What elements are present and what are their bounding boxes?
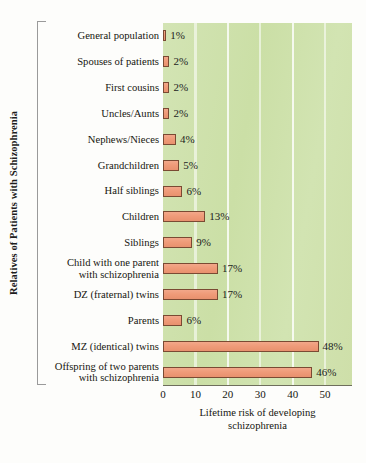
bar-row: 2% bbox=[163, 106, 352, 122]
bar bbox=[163, 30, 166, 41]
category-label: Offspring of two parentswith schizophren… bbox=[46, 361, 159, 384]
bar-row: 2% bbox=[163, 80, 352, 96]
category-label: Children bbox=[46, 211, 159, 222]
category-label: Grandchildren bbox=[46, 160, 159, 171]
bar bbox=[163, 341, 319, 352]
bar bbox=[163, 263, 218, 274]
category-label-line: Grandchildren bbox=[46, 160, 159, 171]
bar-value-label: 2% bbox=[173, 82, 188, 93]
bar-value-label: 9% bbox=[196, 237, 211, 248]
bar bbox=[163, 56, 169, 67]
category-label: Nephews/Nieces bbox=[46, 134, 159, 145]
bar bbox=[163, 211, 205, 222]
category-label-line: Spouses of patients bbox=[46, 56, 159, 67]
category-label: MZ (identical) twins bbox=[46, 341, 159, 352]
category-label-list: General populationSpouses of patientsFir… bbox=[46, 23, 161, 385]
category-label: General population bbox=[46, 30, 159, 41]
bar bbox=[163, 289, 218, 300]
category-label-line: Offspring of two parents bbox=[46, 361, 159, 372]
category-label: First cousins bbox=[46, 82, 159, 93]
bar-value-label: 17% bbox=[222, 289, 242, 300]
category-label: Siblings bbox=[46, 237, 159, 248]
category-label: Spouses of patients bbox=[46, 56, 159, 67]
chart-figure: Relatives of Patients with Schizophrenia… bbox=[0, 0, 366, 463]
bar-row: 17% bbox=[163, 261, 352, 277]
bar-value-label: 46% bbox=[316, 367, 336, 378]
plot-area: 1%2%2%2%4%5%6%13%9%17%17%6%48%46% bbox=[163, 23, 352, 385]
category-label-line: Nephews/Nieces bbox=[46, 134, 159, 145]
x-axis-ticks: 01020304050 bbox=[103, 388, 363, 404]
category-label-line: First cousins bbox=[46, 82, 159, 93]
x-axis-title-line: schizophrenia bbox=[163, 419, 352, 432]
bar-row: 5% bbox=[163, 157, 352, 173]
category-label: DZ (fraternal) twins bbox=[46, 289, 159, 300]
category-label: Child with one parentwith schizophrenia bbox=[46, 257, 159, 280]
category-label-line: with schizophrenia bbox=[46, 372, 159, 383]
bar bbox=[163, 315, 182, 326]
category-label-line: General population bbox=[46, 30, 159, 41]
x-axis-title-line: Lifetime risk of developing bbox=[163, 406, 352, 419]
category-label-line: Parents bbox=[46, 315, 159, 326]
x-axis-line bbox=[163, 385, 352, 386]
bar-row: 4% bbox=[163, 131, 352, 147]
category-label-line: Children bbox=[46, 211, 159, 222]
bar-value-label: 6% bbox=[186, 186, 201, 197]
bar-value-label: 4% bbox=[180, 134, 195, 145]
bar bbox=[163, 367, 312, 378]
category-label-line: Uncles/Aunts bbox=[46, 108, 159, 119]
bar bbox=[163, 82, 169, 93]
bar-value-label: 17% bbox=[222, 263, 242, 274]
y-axis-title-group: Relatives of Patients with Schizophrenia bbox=[0, 21, 36, 385]
y-axis-bracket bbox=[37, 21, 46, 385]
bar-value-label: 5% bbox=[183, 160, 198, 171]
bar bbox=[163, 237, 192, 248]
bar bbox=[163, 108, 169, 119]
category-label: Half siblings bbox=[46, 185, 159, 196]
category-label-line: MZ (identical) twins bbox=[46, 341, 159, 352]
bar-value-label: 1% bbox=[170, 30, 185, 41]
category-label-line: Child with one parent bbox=[46, 257, 159, 268]
y-axis-title: Relatives of Patients with Schizophrenia bbox=[8, 21, 28, 385]
bar-row: 9% bbox=[163, 235, 352, 251]
bar-value-label: 13% bbox=[209, 211, 229, 222]
x-tick-label-50: 50 bbox=[305, 388, 345, 400]
x-axis-title: Lifetime risk of developingschizophrenia bbox=[163, 406, 352, 432]
bar-row: 6% bbox=[163, 183, 352, 199]
category-label-line: DZ (fraternal) twins bbox=[46, 289, 159, 300]
category-label: Uncles/Aunts bbox=[46, 108, 159, 119]
bar-value-label: 2% bbox=[173, 108, 188, 119]
bar-row: 6% bbox=[163, 312, 352, 328]
bar-rows: 1%2%2%2%4%5%6%13%9%17%17%6%48%46% bbox=[163, 23, 352, 385]
category-label-line: Siblings bbox=[46, 237, 159, 248]
category-label: Parents bbox=[46, 315, 159, 326]
bar-value-label: 48% bbox=[323, 341, 343, 352]
bar-row: 13% bbox=[163, 209, 352, 225]
bar bbox=[163, 186, 182, 197]
bar-row: 46% bbox=[163, 364, 352, 380]
category-label-line: Half siblings bbox=[46, 185, 159, 196]
category-label-line: with schizophrenia bbox=[46, 269, 159, 280]
bar-row: 1% bbox=[163, 28, 352, 44]
bar-row: 17% bbox=[163, 287, 352, 303]
bar-value-label: 6% bbox=[186, 315, 201, 326]
bar-row: 2% bbox=[163, 54, 352, 70]
bar-value-label: 2% bbox=[173, 56, 188, 67]
bar bbox=[163, 134, 176, 145]
bar bbox=[163, 160, 179, 171]
bar-row: 48% bbox=[163, 338, 352, 354]
